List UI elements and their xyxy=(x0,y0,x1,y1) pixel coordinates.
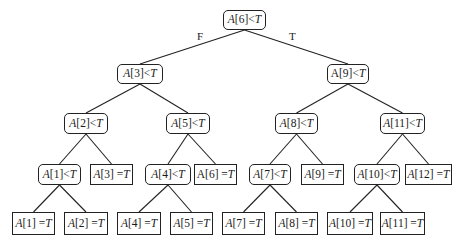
comparison-operator: = xyxy=(88,218,97,230)
target-variable: T xyxy=(151,218,157,230)
array-name: A xyxy=(278,218,285,230)
target-variable: T xyxy=(255,14,261,26)
decision-node: A[7]<T xyxy=(249,164,291,185)
array-index: [7] xyxy=(232,218,245,230)
tree-edge xyxy=(244,185,271,212)
target-variable: T xyxy=(443,169,449,181)
leaf-node: A[4] =T xyxy=(117,212,161,235)
leaf-node: A[9] =T xyxy=(301,164,344,185)
array-name: A xyxy=(329,218,336,230)
array-index: [1] xyxy=(22,218,35,230)
comparison-operator: = xyxy=(407,218,416,230)
array-index: [1] xyxy=(50,169,63,181)
target-variable: T xyxy=(45,218,51,230)
array-name: A xyxy=(171,118,178,130)
tree-edge xyxy=(377,134,403,164)
array-name: A xyxy=(382,218,389,230)
tree-edge xyxy=(245,30,349,64)
tree-edge xyxy=(86,84,140,113)
target-variable: T xyxy=(150,68,156,80)
leaf-node: A[5] =T xyxy=(170,212,213,235)
comparison-operator: = xyxy=(194,218,203,230)
target-variable: T xyxy=(203,218,209,230)
array-name: A xyxy=(225,218,232,230)
array-index: [9] xyxy=(311,169,324,181)
tree-edge xyxy=(270,185,297,212)
decision-node: A[11]<T xyxy=(380,113,425,134)
array-index: [3] xyxy=(100,169,113,181)
decision-node: A[6]<T xyxy=(223,10,266,30)
comparison-operator: = xyxy=(246,218,255,230)
array-name: A xyxy=(228,14,235,26)
target-variable: T xyxy=(417,218,423,230)
array-name: A xyxy=(383,118,390,130)
array-index: [4] xyxy=(128,218,141,230)
target-variable: T xyxy=(359,68,365,80)
tree-edge xyxy=(270,134,297,164)
comparison-operator: = xyxy=(141,218,150,230)
leaf-node: A[7] =T xyxy=(222,212,265,235)
leaf-node: A[1] =T xyxy=(12,212,55,235)
tree-edge xyxy=(188,134,216,164)
tree-edge xyxy=(168,134,188,164)
target-variable: T xyxy=(123,169,129,181)
array-name: A xyxy=(15,218,22,230)
tree-edge xyxy=(168,185,192,212)
decision-node: A[1]<T xyxy=(38,164,81,185)
array-index: [2] xyxy=(76,118,89,130)
leaf-node: A[12] =T xyxy=(405,164,452,185)
array-name: A xyxy=(197,169,205,181)
tree-edge xyxy=(377,185,403,212)
comparison-operator: = xyxy=(218,169,227,181)
array-index: [9] xyxy=(339,68,352,80)
leaf-node: A[6] =T xyxy=(194,164,237,185)
decision-node: A[9]<T xyxy=(327,64,369,84)
comparison-operator: = xyxy=(355,218,364,230)
target-variable: T xyxy=(70,169,76,181)
false-branch-label: F xyxy=(197,30,203,42)
array-index: [10] xyxy=(364,169,383,181)
leaf-node: A[10] =T xyxy=(327,212,373,235)
tree-edge xyxy=(403,134,429,164)
array-name: A xyxy=(304,169,311,181)
array-name: A xyxy=(151,169,158,181)
decision-node: A[8]<T xyxy=(275,113,318,134)
leaf-node: A[8] =T xyxy=(275,212,318,235)
tree-edge xyxy=(350,185,377,212)
array-index: [11] xyxy=(390,118,409,130)
tree-edge xyxy=(297,84,349,113)
array-index: [3] xyxy=(130,68,143,80)
array-name: A xyxy=(93,169,100,181)
comparison-operator: = xyxy=(36,218,45,230)
array-name: A xyxy=(69,118,76,130)
array-name: A xyxy=(123,68,130,80)
array-index: [11] xyxy=(389,218,408,230)
tree-edge xyxy=(297,134,323,164)
array-index: [5] xyxy=(178,118,191,130)
array-index: [2] xyxy=(75,218,88,230)
comparison-operator: = xyxy=(325,169,334,181)
tree-edge xyxy=(34,185,60,212)
target-variable: T xyxy=(255,218,261,230)
tree-edge xyxy=(140,30,245,64)
target-variable: T xyxy=(365,218,371,230)
target-variable: T xyxy=(198,118,204,130)
array-name: A xyxy=(43,169,50,181)
array-index: [4] xyxy=(158,169,171,181)
target-variable: T xyxy=(334,169,340,181)
array-index: [7] xyxy=(260,169,273,181)
array-name: A xyxy=(121,218,128,230)
decision-node: A[3]<T xyxy=(117,64,163,84)
array-name: A xyxy=(253,169,260,181)
array-name: A xyxy=(331,68,339,80)
array-name: A xyxy=(68,218,75,230)
comparison-operator: = xyxy=(434,169,443,181)
decision-node: A[5]<T xyxy=(166,113,210,134)
array-index: [12] xyxy=(415,169,434,181)
decision-tree-diagram: A[6]<TA[3]<TA[9]<TA[2]<TA[5]<TA[8]<TA[11… xyxy=(0,0,462,244)
array-index: [6] xyxy=(235,14,248,26)
array-index: [6] xyxy=(205,169,218,181)
array-name: A xyxy=(280,118,287,130)
tree-edge xyxy=(140,84,188,113)
decision-node: A[2]<T xyxy=(64,113,108,134)
